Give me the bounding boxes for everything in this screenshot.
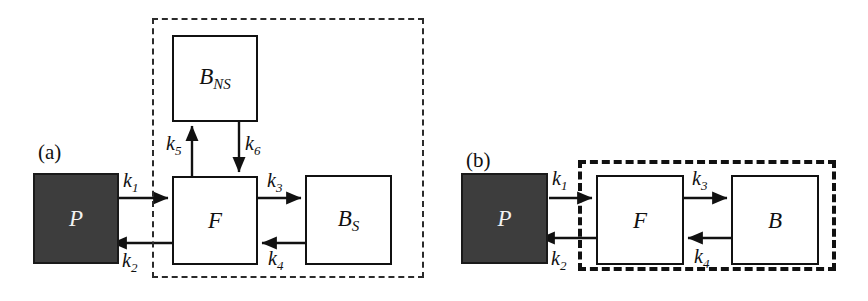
panel-a-rate-k1: k1 [123, 170, 138, 194]
panel-a-box-bound-specific-label: BS [338, 207, 360, 234]
panel-b-rate-k3: k3 [692, 168, 707, 192]
panel-a-box-free-label: F [208, 209, 222, 232]
panel-b-box-free: F [596, 175, 684, 265]
panel-a-box-plasma: P [33, 173, 119, 264]
panel-a-box-plasma-label: P [69, 207, 83, 230]
panel-a-box-bound-specific: BS [305, 175, 392, 265]
panel-a-rate-k4: k4 [268, 248, 283, 272]
panel-b-box-bound: B [731, 175, 819, 265]
panel-b-label: (b) [466, 148, 491, 173]
panel-b-box-plasma-label: P [497, 207, 511, 230]
panel-a-label: (a) [38, 140, 61, 165]
panel-b-rate-k4: k4 [694, 246, 709, 270]
panel-b-rate-k1: k1 [552, 168, 567, 192]
panel-b-box-bound-label: B [768, 209, 782, 232]
panel-a-box-free: F [172, 176, 258, 265]
panel-b-box-plasma: P [461, 173, 548, 264]
panel-a-rate-k3: k3 [267, 170, 282, 194]
panel-b-box-free-label: F [633, 209, 647, 232]
panel-b-rate-k2: k2 [551, 248, 566, 272]
compartment-model-figure: (a) P F BNS BS k1 k2 k3 k4 k5 k6 (b) P F… [0, 0, 868, 301]
panel-a-box-bound-nonspecific: BNS [172, 35, 258, 122]
panel-a-rate-k2: k2 [122, 250, 137, 274]
panel-a-rate-k5: k5 [166, 133, 181, 157]
panel-a-box-bound-nonspecific-label: BNS [199, 65, 231, 92]
panel-a-rate-k6: k6 [245, 133, 260, 157]
